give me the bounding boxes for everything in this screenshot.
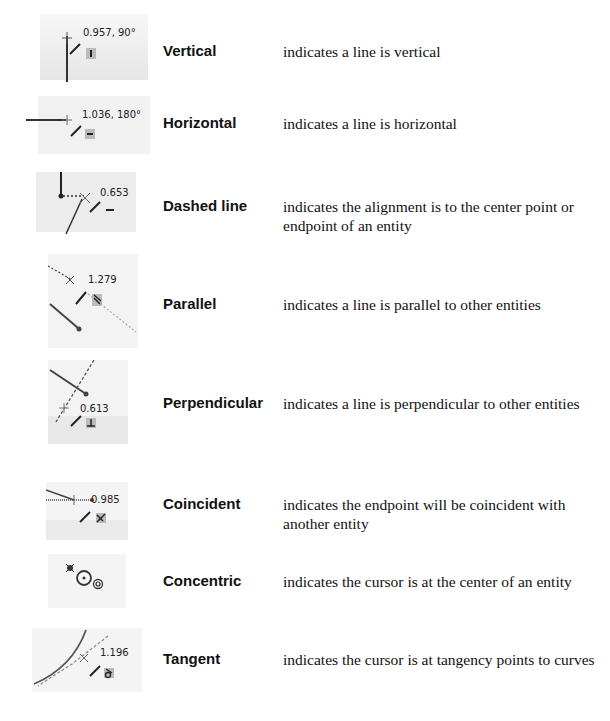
description-text: indicates the cursor is at the center of… (283, 572, 603, 591)
term-label: Tangent (163, 650, 220, 667)
term-label: Coincident (163, 495, 241, 512)
coincident-relation-icon: 0.985 (46, 482, 130, 542)
svg-text:1.196: 1.196 (100, 647, 129, 658)
term-label: Concentric (163, 572, 241, 589)
description-text: indicates a line is vertical (283, 42, 603, 61)
svg-text:1.279: 1.279 (88, 274, 117, 285)
term-label: Horizontal (163, 114, 236, 131)
term-label: Vertical (163, 42, 216, 59)
description-text: indicates a line is perpendicular to oth… (283, 394, 603, 413)
parallel-relation-icon: 1.279 (48, 254, 138, 350)
svg-text:0.613: 0.613 (80, 403, 109, 414)
description-text: indicates the endpoint will be coinciden… (283, 495, 603, 533)
vertical-relation-icon: 0.957, 90° (40, 14, 148, 82)
term-label: Perpendicular (163, 394, 263, 411)
tangent-relation-icon: 1.196 (32, 628, 144, 694)
description-text: indicates a line is parallel to other en… (283, 295, 603, 314)
term-label: Parallel (163, 295, 216, 312)
description-text: indicates the cursor is at tangency poin… (283, 650, 603, 669)
description-text: indicates a line is horizontal (283, 114, 603, 133)
svg-text:1.036, 180°: 1.036, 180° (82, 109, 141, 120)
svg-text:0.653: 0.653 (100, 187, 129, 198)
term-label: Dashed line (163, 197, 247, 214)
svg-text:0.957, 90°: 0.957, 90° (83, 27, 136, 38)
svg-text:0.985: 0.985 (91, 494, 120, 505)
horizontal-relation-icon: 1.036, 180° (26, 96, 150, 156)
perpendicular-relation-icon: 0.613 (48, 360, 130, 446)
dashed-inference-line-icon: 0.653 (36, 172, 138, 234)
description-text: indicates the alignment is to the center… (283, 197, 603, 235)
concentric-relation-icon (48, 554, 128, 610)
